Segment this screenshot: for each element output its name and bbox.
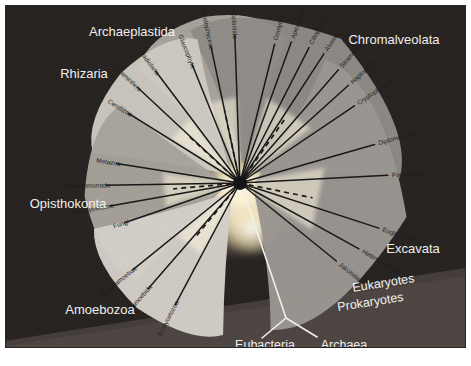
film-grain xyxy=(5,5,466,348)
plate: GlaucophytaRhodophyceaeChloroplastidaOom… xyxy=(5,0,466,352)
tree-canvas: GlaucophytaRhodophyceaeChloroplastidaOom… xyxy=(0,0,471,366)
phylogenetic-tree-figure: GlaucophytaRhodophyceaeChloroplastidaOom… xyxy=(0,0,471,366)
